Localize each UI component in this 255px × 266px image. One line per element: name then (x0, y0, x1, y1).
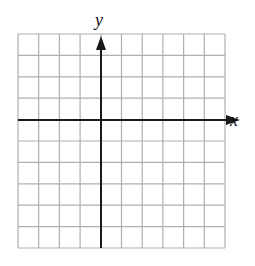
y-axis-arrow-icon (96, 36, 106, 50)
grid-lines (18, 34, 225, 248)
coordinate-grid: x y (0, 0, 255, 266)
y-axis-label: y (93, 10, 103, 30)
x-axis (18, 115, 240, 125)
x-axis-label: x (229, 110, 238, 130)
y-axis (96, 36, 106, 248)
